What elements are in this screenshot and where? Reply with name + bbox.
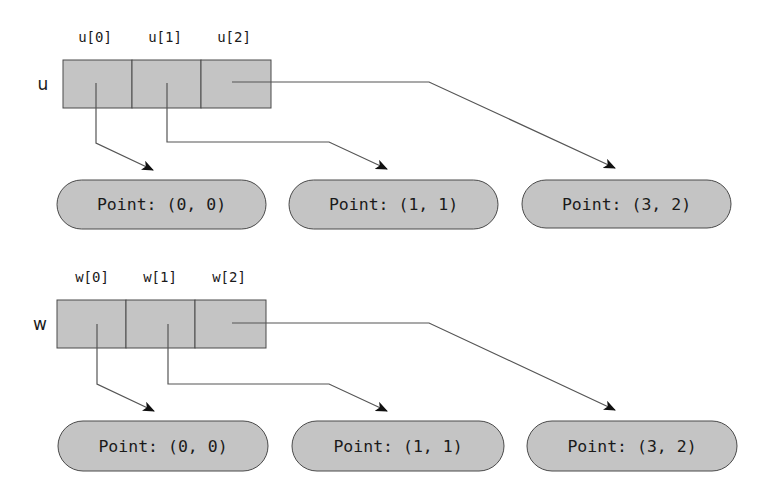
array-cell-u2 (201, 60, 271, 108)
point-object-u1: Point: (1, 1) (289, 180, 498, 229)
array-cell-w0 (57, 300, 126, 348)
variable-label-w: w (33, 314, 47, 334)
reference-arrow-u2 (232, 82, 615, 168)
array-reference-diagram: u[0] u[1] u[2] u Point: (0, 0) Point: (1… (0, 0, 757, 495)
index-label-u1: u[1] (148, 29, 182, 45)
array-u-diagram: u[0] u[1] u[2] u Point: (0, 0) Point: (1… (38, 29, 731, 229)
index-label-w2: w[2] (212, 269, 246, 285)
point-label: Point: (3, 2) (567, 437, 696, 456)
array-w-diagram: w[0] w[1] w[2] w Point: (0, 0) Point: (1… (33, 269, 737, 471)
point-label: Point: (1, 1) (333, 437, 462, 456)
variable-label-u: u (38, 74, 49, 94)
point-object-w0: Point: (0, 0) (58, 421, 268, 471)
point-object-w2: Point: (3, 2) (527, 421, 737, 471)
index-label-w0: w[0] (75, 269, 109, 285)
array-cell-u0 (63, 60, 132, 108)
index-label-u0: u[0] (78, 29, 112, 45)
point-object-u0: Point: (0, 0) (57, 180, 266, 229)
point-label: Point: (0, 0) (97, 195, 226, 214)
reference-arrow-w2 (232, 323, 615, 410)
point-label: Point: (0, 0) (98, 437, 227, 456)
index-label-u2: u[2] (217, 29, 251, 45)
array-cell-w2 (195, 300, 266, 348)
point-label: Point: (1, 1) (329, 195, 458, 214)
index-label-w1: w[1] (143, 269, 177, 285)
array-box-w (57, 300, 266, 348)
point-label: Point: (3, 2) (562, 195, 691, 214)
point-object-u2: Point: (3, 2) (522, 180, 731, 228)
array-cell-w1 (126, 300, 195, 348)
point-object-w1: Point: (1, 1) (292, 421, 504, 471)
